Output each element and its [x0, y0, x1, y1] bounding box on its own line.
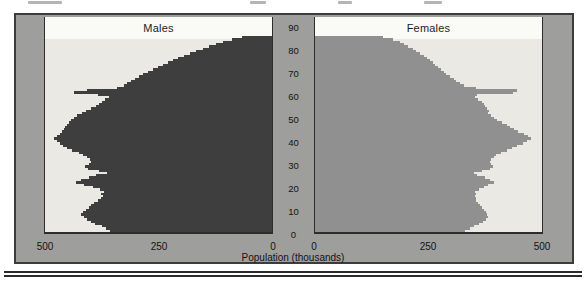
population-bar [315, 68, 441, 71]
population-bar [94, 202, 272, 205]
population-bar [315, 73, 446, 76]
population-bar [315, 147, 512, 150]
population-bar [315, 45, 408, 48]
population-bar [315, 38, 393, 41]
x-tick-label: 500 [534, 241, 551, 252]
caption-fragment [250, 1, 266, 4]
population-bar [100, 188, 272, 191]
population-bar [76, 181, 272, 184]
population-bar [315, 126, 510, 129]
population-bar [57, 140, 272, 143]
population-bar [88, 167, 272, 170]
age-tick-label: 90 [273, 22, 314, 33]
population-bar [163, 64, 272, 67]
population-bar [209, 45, 272, 48]
population-bar [184, 55, 272, 58]
population-bar [69, 121, 272, 124]
population-bar [315, 165, 493, 168]
population-bar [158, 66, 272, 69]
population-bar [315, 167, 490, 170]
population-bar [315, 140, 527, 143]
population-bar [315, 220, 483, 223]
population-bar [315, 172, 474, 175]
population-bar [315, 96, 475, 99]
population-bar [315, 209, 484, 212]
age-tick-label: 30 [273, 160, 314, 171]
population-bar [81, 213, 272, 216]
population-bar [65, 126, 272, 129]
population-bar [101, 197, 272, 200]
population-bar [315, 128, 514, 131]
age-tick-label: 10 [273, 206, 314, 217]
population-bar [101, 193, 272, 196]
population-bar [315, 112, 488, 115]
population-bar [315, 119, 497, 122]
population-bar [315, 117, 494, 120]
age-tick-label: 40 [273, 137, 314, 148]
population-bar [98, 199, 272, 202]
population-bar [106, 227, 272, 230]
population-bar [232, 38, 272, 41]
population-bar [315, 105, 485, 108]
population-bar [315, 213, 487, 216]
population-bar [315, 55, 424, 58]
population-bar [315, 181, 494, 184]
population-bar [105, 98, 272, 101]
population-bar [315, 59, 430, 62]
population-bar [315, 84, 464, 87]
population-bar [60, 133, 272, 136]
population-bar [87, 218, 272, 221]
population-bar [60, 142, 272, 145]
population-bar [104, 190, 272, 193]
population-bar [315, 124, 507, 127]
caption-fragment [338, 1, 352, 4]
population-bar [315, 82, 460, 85]
population-bar [315, 133, 524, 136]
population-bar [315, 87, 476, 90]
population-bar [315, 89, 517, 92]
population-bar [315, 78, 454, 81]
age-tick-label: 60 [273, 91, 314, 102]
population-bar [315, 174, 477, 177]
population-bar [96, 174, 272, 177]
population-bar [315, 43, 404, 46]
males-bars [45, 17, 272, 232]
population-bar [62, 130, 272, 133]
population-bar [315, 153, 496, 156]
x-tick-label: 500 [37, 241, 54, 252]
population-bar [117, 87, 272, 90]
population-bar [96, 105, 272, 108]
population-bar [315, 137, 531, 140]
population-bar [315, 110, 489, 113]
population-bar [139, 75, 272, 78]
population-bar [315, 158, 491, 161]
population-bar [315, 114, 491, 117]
population-bar [54, 137, 272, 140]
population-bar [216, 43, 272, 46]
population-bar [315, 188, 479, 191]
population-bar [315, 66, 438, 69]
age-tick-label: 70 [273, 68, 314, 79]
population-bar [315, 52, 420, 55]
population-bar [315, 107, 487, 110]
population-bar [127, 82, 272, 85]
age-tick-label: 80 [273, 45, 314, 56]
males-panel: Males [44, 17, 273, 234]
females-panel: Females [314, 17, 543, 234]
population-bar [89, 163, 272, 166]
population-bar [315, 197, 476, 200]
population-bar [67, 147, 272, 150]
population-bar [315, 101, 482, 104]
population-bar [93, 186, 272, 189]
population-bar [315, 186, 484, 189]
x-tick-label: 0 [270, 241, 276, 252]
x-tick-label: 250 [420, 241, 437, 252]
population-bar [315, 57, 427, 60]
age-axis-labels: 0102030405060708090 [273, 17, 314, 234]
population-bar [315, 225, 474, 228]
population-bar [315, 227, 470, 230]
population-bar [315, 156, 494, 159]
population-bar [315, 149, 507, 152]
population-bar [315, 121, 502, 124]
age-tick-label: 0 [273, 229, 314, 240]
